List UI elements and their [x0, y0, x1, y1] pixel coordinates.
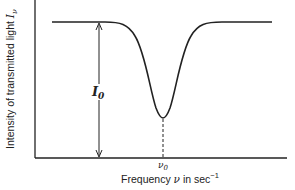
amplitude-label: I0	[91, 84, 105, 101]
y-axis-label: Intensity of transmitted light Iν	[4, 4, 18, 154]
absorption-line-chart: I0 ν0	[0, 0, 295, 190]
x-axis-label: Frequency ν in sec−1	[90, 171, 250, 185]
transmission-curve	[52, 22, 272, 118]
